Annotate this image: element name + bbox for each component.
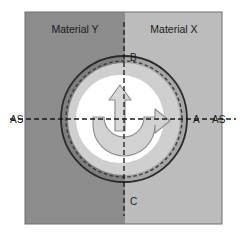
workpiece-cross-section-diagram: Material Y Material X B C A AS AS	[0, 0, 240, 239]
point-label-a: A	[193, 114, 200, 125]
axis-label-as-left: AS	[10, 114, 24, 125]
axis-label-as-right: AS	[212, 114, 226, 125]
figure-root: Material Y Material X B C A AS AS	[0, 0, 240, 239]
point-label-c: C	[130, 196, 137, 207]
material-y-label: Material Y	[51, 23, 98, 35]
point-label-b: B	[130, 52, 137, 63]
material-x-label: Material X	[150, 23, 197, 35]
